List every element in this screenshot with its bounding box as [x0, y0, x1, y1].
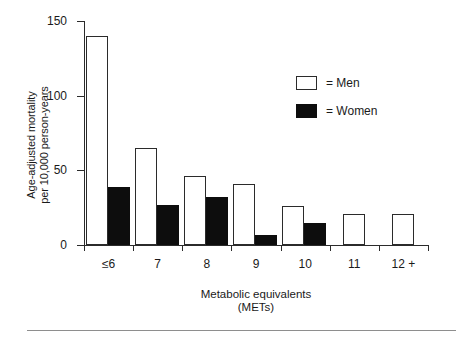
y-axis-title: Age-adjusted mortality per 10,000 person…	[25, 45, 51, 245]
x-tick	[428, 245, 429, 251]
legend-label-women: = Women	[326, 104, 377, 118]
x-tick-label-10: 10	[298, 257, 311, 271]
bar-women-10	[304, 223, 326, 245]
x-tick	[231, 245, 232, 251]
bar-women-9	[255, 235, 277, 245]
y-tick: 0	[77, 245, 84, 246]
legend-swatch-men-icon	[296, 76, 317, 90]
y-tick: 150	[77, 21, 84, 22]
x-tick	[281, 245, 282, 251]
bar-men-7	[135, 148, 157, 245]
x-tick-label-8: 8	[204, 257, 211, 271]
x-axis-line	[84, 245, 428, 246]
legend-label-men: = Men	[326, 76, 360, 90]
bar-men-9	[233, 184, 255, 245]
x-tick	[379, 245, 380, 251]
bar-men-12 +	[392, 214, 414, 245]
x-tick	[84, 245, 85, 251]
y-tick-label: 0	[60, 238, 67, 252]
bar-women-≤6	[108, 187, 130, 245]
bar-men-10	[282, 206, 304, 245]
x-tick-label-≤6: ≤6	[102, 257, 115, 271]
x-tick-label-11: 11	[348, 257, 360, 271]
x-tick	[330, 245, 331, 251]
bar-men-≤6	[86, 36, 108, 245]
plot-area: 050100150 ≤6789101112 +	[84, 21, 428, 245]
y-tick: 50	[77, 170, 84, 171]
legend-item-women: = Women	[296, 100, 377, 122]
chart-figure: Age-adjusted mortality per 10,000 person…	[0, 0, 465, 344]
y-tick: 100	[77, 96, 84, 97]
legend-swatch-women-icon	[296, 104, 317, 118]
y-tick-label: 150	[47, 14, 67, 28]
x-axis-title: Metabolic equivalents (METs)	[84, 288, 428, 314]
footer-divider	[27, 330, 456, 331]
bar-women-7	[157, 205, 179, 245]
bar-men-11	[343, 214, 365, 245]
y-tick-label: 100	[47, 89, 67, 103]
x-tick-label-9: 9	[253, 257, 260, 271]
x-tick	[182, 245, 183, 251]
bar-men-8	[184, 176, 206, 245]
x-tick	[133, 245, 134, 251]
bar-women-8	[206, 197, 228, 245]
x-tick-label-12 +: 12 +	[392, 257, 416, 271]
y-tick-label: 50	[54, 163, 67, 177]
x-tick-label-7: 7	[154, 257, 161, 271]
legend: = Men = Women	[296, 72, 377, 128]
legend-item-men: = Men	[296, 72, 377, 94]
